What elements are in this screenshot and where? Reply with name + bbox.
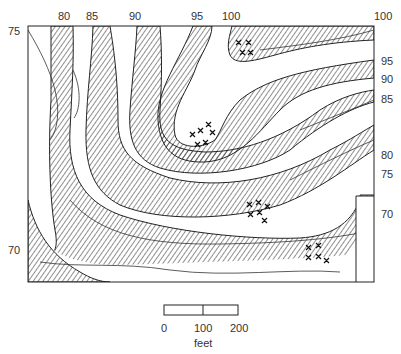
contour-label-top: 90 bbox=[129, 10, 141, 22]
contour-label-right: 80 bbox=[381, 149, 393, 161]
scale-unit-label: feet bbox=[194, 337, 212, 349]
scale-tick-label: 100 bbox=[194, 322, 212, 334]
contour-label-left: 75 bbox=[8, 25, 20, 37]
scale-tick-label: 0 bbox=[161, 322, 167, 334]
scale-bar bbox=[164, 305, 238, 315]
contour-label-right: 90 bbox=[381, 73, 393, 85]
contour-label-top: 85 bbox=[86, 10, 98, 22]
contour-label-right: 75 bbox=[381, 168, 393, 180]
contour-label-left: 70 bbox=[8, 244, 20, 256]
contour-label-right: 85 bbox=[381, 93, 393, 105]
contour-label-top: 80 bbox=[58, 10, 70, 22]
contour-label-top: 100 bbox=[222, 10, 240, 22]
contour-label-right: 95 bbox=[381, 55, 393, 67]
hatched-bands bbox=[28, 26, 374, 282]
contour-map bbox=[0, 0, 401, 354]
contour-label-top: 100 bbox=[374, 10, 392, 22]
contour-label-right: 70 bbox=[381, 208, 393, 220]
contour-label-top: 95 bbox=[191, 10, 203, 22]
scale-tick-label: 200 bbox=[230, 322, 248, 334]
